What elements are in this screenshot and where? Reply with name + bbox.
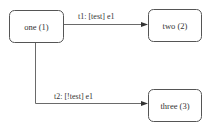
transition-t1[interactable]: t1: [test] e1	[63, 12, 148, 28]
transition-t1-label: t1: [test] e1	[78, 12, 114, 21]
state-three-label: three (3)	[160, 101, 189, 111]
transition-t2[interactable]: t2: [!test] e1	[36, 42, 149, 106]
state-two-label: two (2)	[163, 21, 188, 31]
transition-t2-label: t2: [!test] e1	[54, 92, 93, 101]
state-two[interactable]: two (2)	[149, 10, 202, 42]
state-three[interactable]: three (3)	[149, 90, 202, 122]
state-one[interactable]: one (1)	[10, 11, 64, 43]
arrowhead-icon	[141, 101, 148, 106]
state-one-label: one (1)	[24, 22, 48, 32]
arrowhead-icon	[141, 22, 148, 27]
state-diagram: t1: [test] e1 t2: [!test] e1 one (1) two…	[0, 0, 214, 130]
